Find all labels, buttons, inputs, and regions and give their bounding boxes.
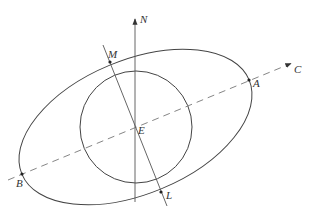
outer-ellipse bbox=[0, 18, 275, 220]
label-c: C bbox=[294, 63, 302, 75]
label-b: B bbox=[16, 177, 23, 189]
point-a bbox=[247, 78, 250, 81]
point-m bbox=[108, 60, 111, 63]
point-b bbox=[20, 172, 23, 175]
point-l bbox=[159, 190, 162, 193]
label-m: M bbox=[107, 48, 118, 60]
label-e: E bbox=[137, 124, 145, 136]
label-n: N bbox=[139, 13, 148, 25]
label-l: L bbox=[165, 189, 172, 201]
label-a: A bbox=[252, 77, 260, 89]
diagram-canvas: N C E A B M L bbox=[0, 0, 312, 220]
